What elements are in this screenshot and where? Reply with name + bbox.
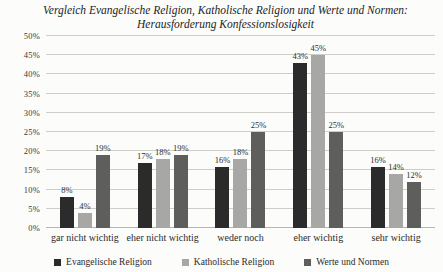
bar-wrap: 25% [329,36,343,228]
y-tick-label: 50% [0,31,40,41]
bar-value-label: 4% [79,201,90,211]
legend-swatch [54,259,61,266]
category-label: gar nicht wichtig [46,232,124,243]
legend-item: Werte und Normen [304,257,389,267]
bar-wrap: 4% [78,36,92,228]
bar [174,155,188,228]
bar-value-label: 17% [137,151,153,161]
bar [251,132,265,228]
legend: Evangelische ReligionKatholische Religio… [0,257,443,267]
category-label: weder noch [202,232,280,243]
bar-wrap: 14% [389,36,403,228]
y-tick-label: 0% [0,223,40,233]
bar [96,155,110,228]
bar-wrap: 18% [156,36,170,228]
legend-label: Werte und Normen [316,257,389,267]
bar-value-label: 16% [370,155,386,165]
bar-wrap: 16% [371,36,385,228]
bar [156,159,170,228]
bar-value-label: 43% [292,51,308,61]
bar-wrap: 43% [293,36,307,228]
bar [138,163,152,228]
category-label: sehr wichtig [357,232,435,243]
y-tick-label: 40% [0,69,40,79]
bar-group: 17%18%19% [124,36,202,228]
bar [389,174,403,228]
legend-label: Katholische Religion [194,257,274,267]
bar [60,197,74,228]
bar-group: 43%45%25% [279,36,357,228]
bar-value-label: 12% [406,170,422,180]
bar-wrap: 16% [215,36,229,228]
bar [233,159,247,228]
bar [215,167,229,228]
x-axis-category-labels: gar nicht wichtigeher nicht wichtigweder… [46,232,435,243]
bar [371,167,385,228]
legend-label: Evangelische Religion [66,257,152,267]
bar-value-label: 16% [215,155,231,165]
bar-value-label: 14% [388,162,404,172]
bar-value-label: 45% [310,43,326,53]
legend-item: Evangelische Religion [54,257,152,267]
y-tick-label: 30% [0,108,40,118]
y-tick-label: 5% [0,204,40,214]
bar-value-label: 25% [251,120,267,130]
bar-value-label: 8% [61,185,72,195]
bar-group: 16%18%25% [202,36,280,228]
bar-groups: 8%4%19%17%18%19%16%18%25%43%45%25%16%14%… [46,36,435,228]
y-tick-label: 25% [0,127,40,137]
plot-area: 0%5%10%15%20%25%30%35%40%45%50%8%4%19%17… [46,36,435,228]
chart-title: Vergleich Evangelische Religion, Katholi… [38,3,413,32]
legend-item: Katholische Religion [182,257,274,267]
bar-group: 16%14%12% [357,36,435,228]
bar-wrap: 19% [174,36,188,228]
y-tick-label: 45% [0,50,40,60]
bar [329,132,343,228]
bar-value-label: 19% [173,143,189,153]
bar-value-label: 19% [95,143,111,153]
bar [407,182,421,228]
bar [78,213,92,228]
category-label: eher wichtig [279,232,357,243]
bar-wrap: 25% [251,36,265,228]
bar-value-label: 18% [155,147,171,157]
bar-wrap: 45% [311,36,325,228]
bar-wrap: 17% [138,36,152,228]
bar-wrap: 18% [233,36,247,228]
legend-swatch [182,259,189,266]
y-tick-label: 10% [0,185,40,195]
y-tick-label: 15% [0,165,40,175]
bar-wrap: 19% [96,36,110,228]
category-label: eher nicht wichtig [124,232,202,243]
bar-wrap: 8% [60,36,74,228]
legend-swatch [304,259,311,266]
bar [293,63,307,228]
bar-value-label: 25% [328,120,344,130]
bar [311,55,325,228]
bar-wrap: 12% [407,36,421,228]
y-tick-label: 35% [0,89,40,99]
y-tick-label: 20% [0,146,40,156]
bar-chart-figure: Vergleich Evangelische Religion, Katholi… [0,0,443,272]
bar-group: 8%4%19% [46,36,124,228]
bar-value-label: 18% [233,147,249,157]
